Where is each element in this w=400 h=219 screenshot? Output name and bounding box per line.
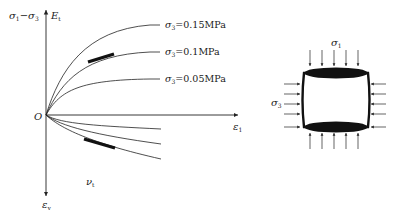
top-platen (304, 68, 368, 79)
bottom-platen (304, 122, 368, 133)
legend-label-0.1: σ3=0.1MPa (165, 46, 220, 58)
y-axis-label: σ1−σ3 (9, 10, 39, 22)
tangent-modulus-label: Et (50, 10, 61, 22)
triaxial-specimen: σ1 σ3 (271, 37, 386, 149)
legend-label-0.05: σ3=0.05MPa (165, 73, 226, 85)
curve-sigma3-0.15 (46, 25, 150, 115)
curve-volumetric-2 (46, 115, 161, 144)
x-axis-label: ε1 (233, 121, 242, 133)
curve-sigma3-0.05 (46, 79, 150, 115)
stress-strain-plot: σ1−σ3 Et O ε1 νt εv σ3=0.15MPa σ3=0.1MPa… (9, 10, 242, 211)
confining-stress-label: σ3 (271, 97, 282, 109)
left-confining-arrows (284, 84, 300, 127)
curve-volumetric-3 (46, 115, 161, 159)
diagram-canvas: σ1−σ3 Et O ε1 νt εv σ3=0.15MPa σ3=0.1MPa… (0, 0, 400, 219)
origin-label: O (34, 111, 42, 122)
specimen-body (303, 73, 370, 127)
axial-stress-label: σ1 (331, 37, 342, 49)
highlight-segment-lower (84, 139, 115, 148)
poisson-ratio-label: νt (86, 176, 95, 188)
legend-label-0.15: σ3=0.15MPa (165, 19, 226, 31)
volumetric-strain-label: εv (42, 199, 51, 211)
bottom-load-arrows (310, 133, 358, 149)
top-load-arrows (310, 50, 358, 66)
right-confining-arrows (371, 84, 386, 127)
curve-sigma3-0.1 (46, 52, 150, 115)
